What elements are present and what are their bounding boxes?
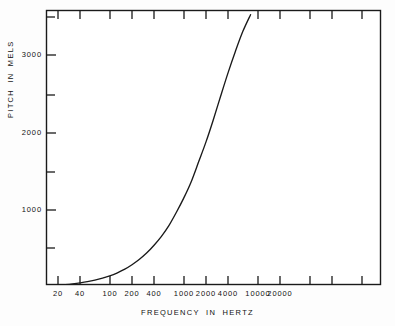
- xtick-label-400: 400: [146, 290, 161, 298]
- plot-frame: [47, 11, 381, 285]
- ytick-label-1000: 1000: [8, 206, 42, 214]
- xtick-label-20000: 20000: [267, 290, 292, 298]
- x-axis-title: FREQUENCY IN HERTZ: [0, 308, 395, 317]
- mel-scale-figure: 20 40 100 200 400 1000 2000 4000 10000 2…: [0, 0, 395, 326]
- plot-area: [0, 0, 395, 326]
- xtick-label-20: 20: [53, 290, 63, 298]
- xtick-label-2000: 2000: [196, 290, 216, 298]
- ytick-label-2000: 2000: [8, 129, 42, 137]
- xtick-label-40: 40: [75, 290, 85, 298]
- xtick-label-1000: 1000: [174, 290, 194, 298]
- xtick-label-100: 100: [102, 290, 117, 298]
- xtick-label-200: 200: [124, 290, 139, 298]
- y-axis-title: PITCH IN MELS: [6, 41, 15, 119]
- xtick-label-4000: 4000: [218, 290, 238, 298]
